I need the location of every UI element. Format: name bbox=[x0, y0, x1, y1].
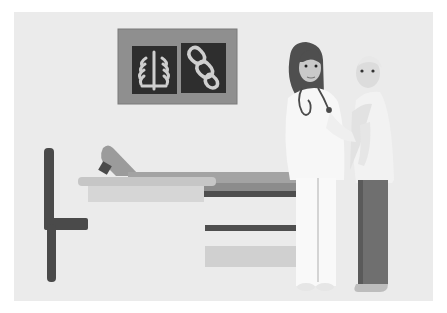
xray-board bbox=[118, 29, 237, 104]
illustration bbox=[0, 0, 447, 313]
